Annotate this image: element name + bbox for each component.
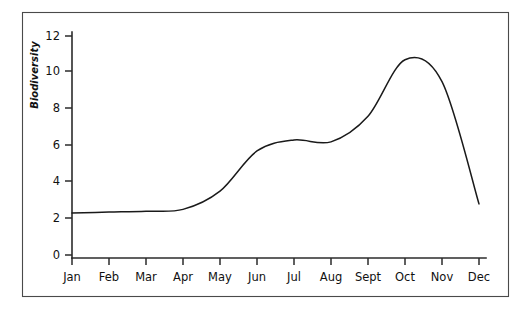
y-axis-title: Biodiversity [29, 41, 40, 109]
y-tick-label-6: 6 [53, 138, 60, 152]
x-tick-label-jun: Jun [247, 270, 266, 284]
y-tick-marks [65, 36, 72, 255]
x-tick-label-apr: Apr [173, 270, 193, 284]
x-tick-labels: Jan Feb Mar Apr May Jun Jul Aug Sept Oct… [62, 270, 490, 284]
x-tick-label-aug: Aug [320, 270, 342, 284]
y-tick-label-10: 10 [45, 64, 60, 78]
x-tick-label-jan: Jan [62, 270, 81, 284]
y-tick-label-12: 12 [45, 29, 60, 43]
figure-border [23, 13, 509, 297]
y-tick-labels: 12 10 8 6 4 2 0 [45, 29, 60, 262]
x-tick-label-mar: Mar [135, 270, 157, 284]
x-tick-marks [72, 258, 479, 265]
x-tick-label-oct: Oct [395, 270, 415, 284]
y-tick-label-8: 8 [53, 101, 60, 115]
biodiversity-line-chart: 12 10 8 6 4 2 0 Biodiversity Jan Feb Mar… [0, 0, 529, 309]
x-tick-label-nov: Nov [431, 270, 454, 284]
y-tick-label-2: 2 [53, 211, 60, 225]
y-tick-label-4: 4 [53, 174, 60, 188]
x-tick-label-jul: Jul [286, 270, 301, 284]
x-tick-label-feb: Feb [99, 270, 119, 284]
biodiversity-curve [72, 57, 479, 213]
x-tick-label-may: May [208, 270, 232, 284]
y-tick-label-0: 0 [53, 248, 60, 262]
x-tick-label-dec: Dec [468, 270, 490, 284]
x-tick-label-sept: Sept [355, 270, 382, 284]
